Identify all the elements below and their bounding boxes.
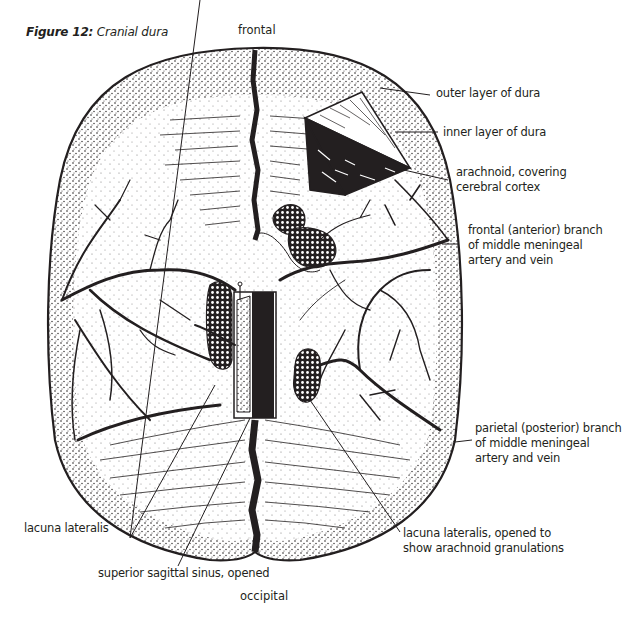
label-lacuna-right-line2: show arachnoid granulations bbox=[403, 541, 564, 556]
label-inner-layer-of-dura: inner layer of dura bbox=[443, 125, 546, 140]
label-superior-sagittal-sinus: superior sagittal sinus, opened bbox=[98, 566, 269, 581]
label-frontal-branch-line3: artery and vein bbox=[468, 253, 553, 268]
label-lacuna-right-line1: lacuna lateralis, opened to bbox=[403, 526, 551, 541]
sagittal-sinus-opened bbox=[234, 282, 276, 418]
label-parietal-branch-line2: of middle meningeal bbox=[475, 436, 590, 451]
label-frontal-branch-line1: frontal (anterior) branch bbox=[468, 223, 602, 238]
label-lacuna-lateralis-left: lacuna lateralis bbox=[24, 521, 109, 536]
label-outer-layer-of-dura: outer layer of dura bbox=[436, 86, 540, 101]
label-parietal-branch-line3: artery and vein bbox=[475, 451, 560, 466]
label-arachnoid-line2: cerebral cortex bbox=[456, 180, 540, 195]
label-parietal-branch-line1: parietal (posterior) branch bbox=[475, 421, 622, 436]
label-frontal-branch-line2: of middle meningeal bbox=[468, 238, 583, 253]
label-arachnoid-line1: arachnoid, covering bbox=[456, 165, 567, 180]
